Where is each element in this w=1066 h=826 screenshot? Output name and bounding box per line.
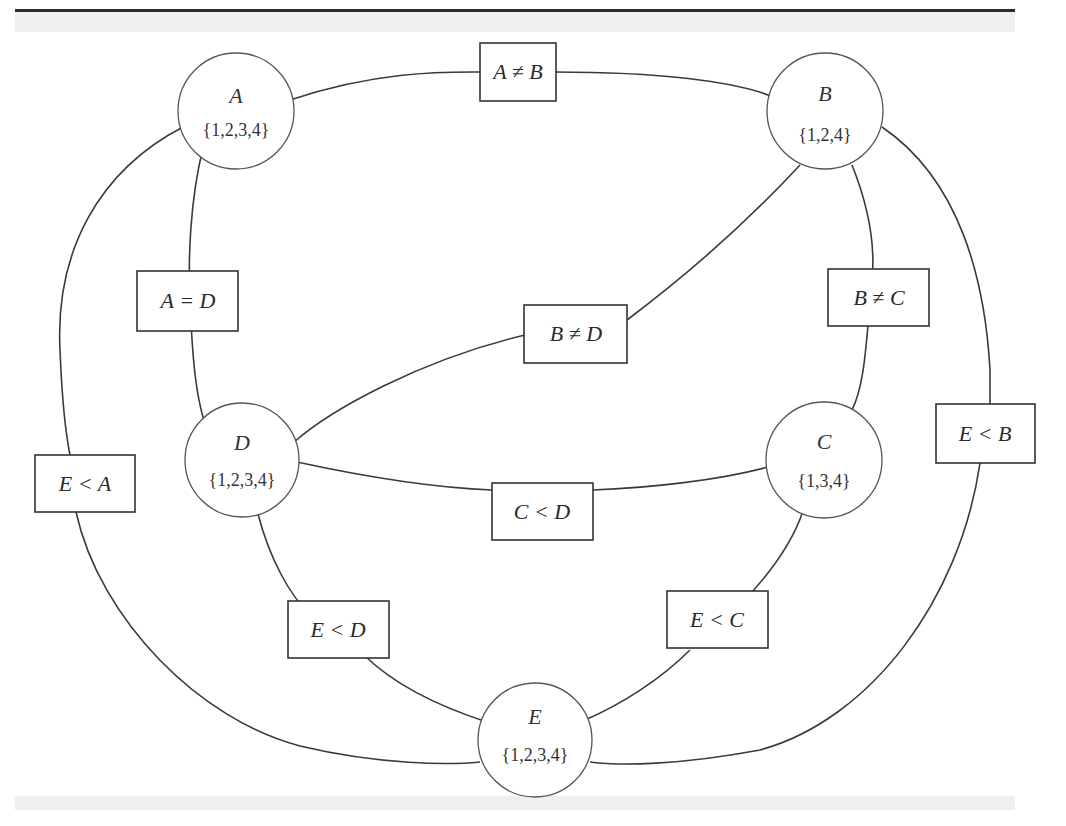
constraint-label: E < B	[958, 421, 1012, 446]
constraint-ab[interactable]: A ≠ B	[480, 43, 556, 101]
edge-b-d	[293, 165, 800, 443]
constraint-label: A = D	[159, 288, 216, 313]
constraint-label: E < C	[689, 607, 744, 632]
node-c[interactable]: C {1,3,4}	[766, 402, 882, 518]
node-name: A	[227, 83, 243, 108]
node-name: E	[527, 704, 542, 729]
constraint-label: B ≠ D	[550, 321, 603, 346]
node-b[interactable]: B {1,2,4}	[767, 53, 883, 169]
node-name: B	[818, 81, 831, 106]
constraint-ad[interactable]: A = D	[137, 271, 238, 331]
constraint-label: B ≠ C	[853, 285, 905, 310]
constraint-label: A ≠ B	[491, 59, 543, 84]
node-domain: {1,3,4}	[797, 471, 850, 491]
constraint-label: C < D	[514, 499, 571, 524]
constraint-bc[interactable]: B ≠ C	[828, 269, 929, 326]
node-domain: {1,2,3,4}	[209, 470, 276, 490]
node-a[interactable]: A {1,2,3,4}	[178, 53, 294, 169]
constraint-ed[interactable]: E < D	[288, 601, 389, 658]
node-e[interactable]: E {1,2,3,4}	[478, 683, 592, 797]
node-domain: {1,2,4}	[798, 125, 851, 145]
constraint-eb[interactable]: E < B	[936, 404, 1035, 463]
constraint-label: E < A	[58, 471, 112, 496]
node-domain: {1,2,3,4}	[502, 745, 569, 765]
constraint-ea[interactable]: E < A	[35, 455, 135, 512]
node-d[interactable]: D {1,2,3,4}	[185, 403, 299, 517]
node-domain: {1,2,3,4}	[203, 120, 270, 140]
node-name: C	[817, 429, 832, 454]
constraint-cd[interactable]: C < D	[492, 483, 593, 540]
constraint-graph: A ≠ B A = D B ≠ D B ≠ C E < A E < B C < …	[0, 0, 1066, 826]
constraint-label: E < D	[309, 617, 365, 642]
node-name: D	[233, 430, 250, 455]
constraint-bd[interactable]: B ≠ D	[524, 305, 627, 363]
constraint-ec[interactable]: E < C	[667, 591, 768, 648]
